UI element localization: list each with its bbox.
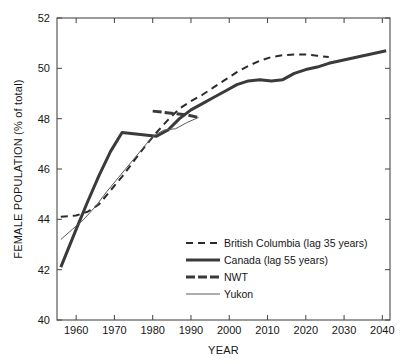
- y-axis-title: FEMALE POPULATION (% of total): [12, 79, 24, 258]
- x-tick-label: 1970: [102, 324, 126, 336]
- legend-label-3: Yukon: [224, 288, 253, 300]
- y-tick-label: 44: [38, 213, 50, 225]
- x-tick-label: 1960: [64, 324, 88, 336]
- x-tick-label: 2020: [294, 324, 318, 336]
- series-line-1: [61, 51, 386, 267]
- y-tick-label: 42: [38, 264, 50, 276]
- series-line-3: [61, 117, 199, 239]
- x-tick-label: 2030: [332, 324, 356, 336]
- x-tick-label: 2000: [217, 324, 241, 336]
- y-tick-label: 40: [38, 314, 50, 326]
- legend-label-2: NWT: [224, 271, 248, 283]
- chart-figure: 1960197019801990200020102020203020404042…: [0, 0, 408, 364]
- legend-label-1: Canada (lag 55 years): [224, 254, 328, 266]
- y-tick-label: 48: [38, 113, 50, 125]
- chart-canvas: 1960197019801990200020102020203020404042…: [0, 0, 408, 364]
- series-line-0: [61, 54, 329, 216]
- y-tick-label: 46: [38, 163, 50, 175]
- y-tick-label: 52: [38, 12, 50, 24]
- x-tick-label: 1990: [179, 324, 203, 336]
- legend-label-0: British Columbia (lag 35 years): [224, 237, 368, 249]
- x-tick-label: 1980: [140, 324, 164, 336]
- y-tick-label: 50: [38, 62, 50, 74]
- x-tick-label: 2040: [370, 324, 394, 336]
- x-axis-title: YEAR: [208, 344, 239, 356]
- x-tick-label: 2010: [255, 324, 279, 336]
